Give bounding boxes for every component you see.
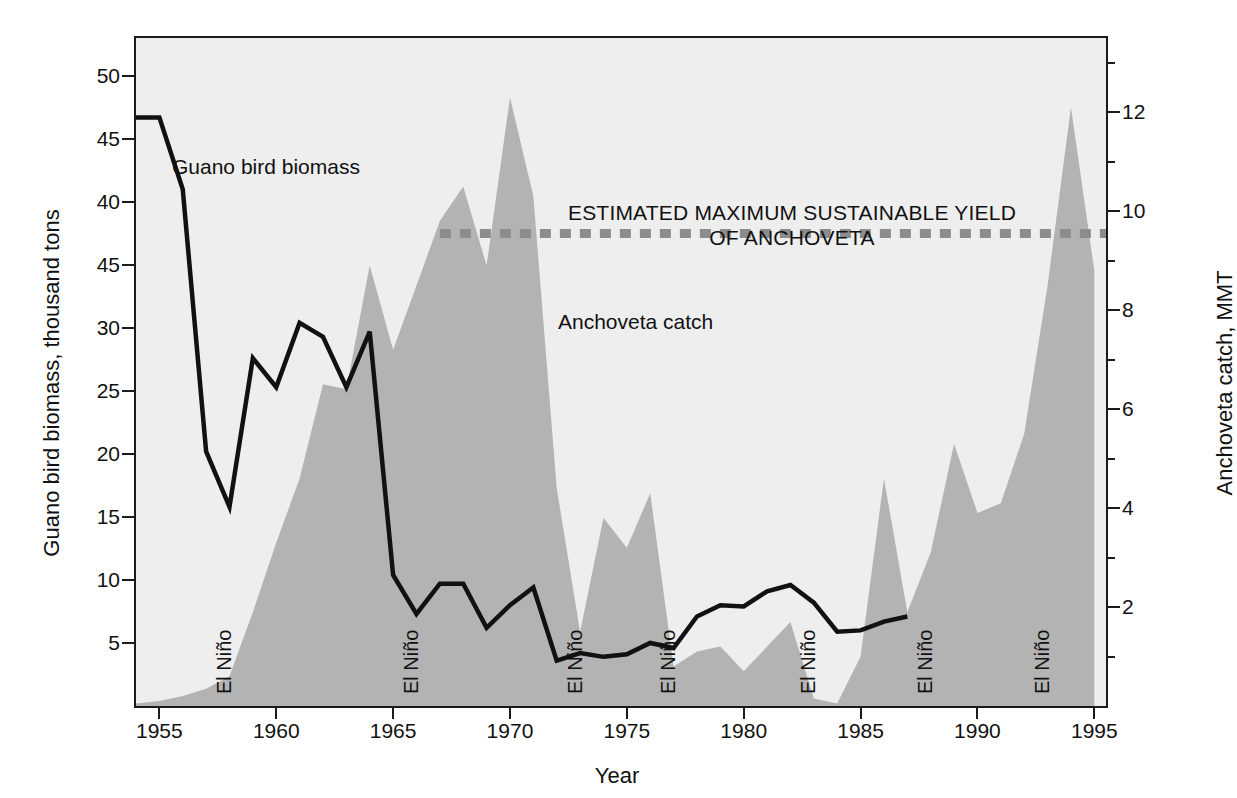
y-axis-right-minor-tick-mark <box>1107 161 1115 163</box>
el-nino-annotation: El Niño <box>658 630 678 694</box>
anchoveta-catch-annotation: Anchoveta catch <box>558 310 713 335</box>
y-axis-left-tick-mark <box>122 138 135 140</box>
x-axis-title: Year <box>0 765 1234 787</box>
x-axis-tick-mark <box>976 707 978 719</box>
x-axis-tick-label: 1980 <box>699 720 789 741</box>
y-axis-left-tick-mark <box>122 264 135 266</box>
y-axis-right-tick-mark <box>1107 507 1120 509</box>
el-nino-annotation: El Niño <box>915 630 935 694</box>
y-axis-left-tick-mark <box>122 327 135 329</box>
y-axis-left-tick-mark <box>122 390 135 392</box>
y-axis-right-tick-label: 12 <box>1122 101 1145 122</box>
x-axis-tick-label: 1975 <box>582 720 672 741</box>
y-axis-left-tick-label: 45 <box>58 254 120 275</box>
x-axis-tick-label: 1990 <box>932 720 1022 741</box>
el-nino-annotation: El Niño <box>401 630 421 694</box>
y-axis-left-tick-mark <box>122 516 135 518</box>
y-axis-right-tick-label: 2 <box>1122 596 1134 617</box>
anchoveta-area-series <box>136 97 1094 706</box>
y-axis-left-tick-label: 20 <box>58 443 120 464</box>
el-nino-annotation: El Niño <box>1032 630 1052 694</box>
emsy-annotation-line2: OF ANCHOVETA <box>532 226 1052 251</box>
x-axis-tick-label: 1955 <box>114 720 204 741</box>
x-axis-tick-mark <box>743 707 745 719</box>
x-axis-tick-label: 1995 <box>1049 720 1139 741</box>
y-axis-left-tick-mark <box>122 75 135 77</box>
y-axis-left-title: Guano bird biomass, thousand tons <box>41 173 63 593</box>
y-axis-right-tick-label: 6 <box>1122 398 1134 419</box>
x-axis-tick-mark <box>392 707 394 719</box>
el-nino-annotation: El Niño <box>565 630 585 694</box>
y-axis-left-tick-mark <box>122 579 135 581</box>
el-nino-annotation: El Niño <box>798 630 818 694</box>
y-axis-right-tick-mark <box>1107 111 1120 113</box>
y-axis-left-tick-label: 15 <box>58 506 120 527</box>
el-nino-annotation: El Niño <box>214 630 234 694</box>
y-axis-left-tick-label: 45 <box>58 128 120 149</box>
x-axis-tick-mark <box>626 707 628 719</box>
y-axis-right-tick-label: 4 <box>1122 497 1134 518</box>
y-axis-left-tick-label: 50 <box>58 65 120 86</box>
y-axis-left-tick-label: 5 <box>58 632 120 653</box>
chart-canvas <box>136 38 1106 706</box>
emsy-annotation-line1: ESTIMATED MAXIMUM SUSTAINABLE YIELD <box>532 201 1052 226</box>
x-axis-tick-label: 1965 <box>348 720 438 741</box>
x-axis-tick-mark <box>158 707 160 719</box>
y-axis-left-tick-label: 25 <box>58 380 120 401</box>
y-axis-right-tick-mark <box>1107 606 1120 608</box>
y-axis-right-minor-tick-mark <box>1107 359 1115 361</box>
y-axis-left-tick-mark <box>122 201 135 203</box>
y-axis-right-minor-tick-mark <box>1107 260 1115 262</box>
y-axis-right-minor-tick-mark <box>1107 62 1115 64</box>
y-axis-right-tick-mark <box>1107 309 1120 311</box>
x-axis-tick-label: 1960 <box>231 720 321 741</box>
y-axis-right-tick-label: 8 <box>1122 299 1134 320</box>
y-axis-right-tick-mark <box>1107 210 1120 212</box>
y-axis-right-tick-label: 10 <box>1122 200 1145 221</box>
y-axis-left-tick-mark <box>122 453 135 455</box>
x-axis-tick-label: 1970 <box>465 720 555 741</box>
y-axis-left-tick-label: 30 <box>58 317 120 338</box>
x-axis-tick-mark <box>509 707 511 719</box>
emsy-annotation: ESTIMATED MAXIMUM SUSTAINABLE YIELD OF A… <box>532 201 1052 251</box>
x-axis-tick-mark <box>275 707 277 719</box>
y-axis-right-title: Anchoveta catch, MMT <box>1214 223 1236 543</box>
guano-bird-biomass-annotation: Guano bird biomass <box>172 155 360 180</box>
y-axis-right-minor-tick-mark <box>1107 557 1115 559</box>
y-axis-left-tick-label: 10 <box>58 569 120 590</box>
y-axis-right-minor-tick-mark <box>1107 458 1115 460</box>
y-axis-right-tick-mark <box>1107 408 1120 410</box>
y-axis-left-tick-label: 40 <box>58 191 120 212</box>
plot-area: Guano bird biomass Anchoveta catch ESTIM… <box>134 36 1108 708</box>
x-axis-tick-mark <box>1093 707 1095 719</box>
x-axis-tick-mark <box>860 707 862 719</box>
x-axis-tick-label: 1985 <box>816 720 906 741</box>
y-axis-right-minor-tick-mark <box>1107 656 1115 658</box>
y-axis-left-tick-mark <box>122 642 135 644</box>
